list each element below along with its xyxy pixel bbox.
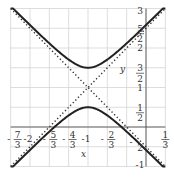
svg-text:3: 3 [50,140,56,150]
svg-text:3: 3 [137,63,143,73]
svg-text:1: 1 [162,130,168,140]
tick-label: 52 [136,24,144,45]
svg-text:5: 5 [137,24,143,34]
svg-text:3: 3 [162,140,168,150]
svg-text:5: 5 [50,130,56,140]
tick-label: 32 [136,63,144,84]
tick-label: 13 [161,130,169,151]
svg-text:4: 4 [70,130,76,140]
svg-text:-: - [62,134,65,144]
svg-text:3: 3 [70,140,76,150]
tick-label: 3 [137,6,143,16]
svg-text:2: 2 [137,113,143,123]
tick-label: -1 [136,160,145,170]
svg-text:2: 2 [137,143,143,153]
hyperbola-plot: -73-2-53-43-1-2313352232112-2-1 x y [0,0,174,178]
svg-text:-1: -1 [136,160,145,170]
svg-text:2: 2 [108,130,114,140]
tick-label: -1 [82,134,91,144]
svg-text:3: 3 [15,140,21,150]
y-axis-label: y [119,64,126,74]
svg-text:-: - [101,134,104,144]
svg-text:2: 2 [137,43,143,53]
tick-label: -2 [24,134,33,144]
tick-label: 1 [137,83,143,93]
svg-text:-: - [7,134,10,144]
svg-text:-: - [43,134,46,144]
svg-text:-2: -2 [24,134,33,144]
tick-label: -73 [7,130,22,151]
tick-label: 12 [136,103,144,124]
svg-text:7: 7 [15,130,21,140]
svg-text:-1: -1 [82,134,91,144]
svg-text:3: 3 [108,140,114,150]
x-axis-label: x [81,149,86,159]
svg-text:1: 1 [137,103,143,113]
svg-text:1: 1 [137,83,143,93]
svg-text:-: - [129,137,132,147]
svg-text:3: 3 [137,6,143,16]
tick-label: 2 [137,43,143,53]
